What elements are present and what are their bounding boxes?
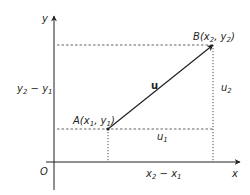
- vector-diagram: y x O B(x2, y2) A(x1, y1) u u1 u2 x2 − x…: [0, 0, 250, 195]
- origin-label: O: [40, 166, 48, 177]
- horizontal-difference-label: x2 − x1: [145, 168, 182, 181]
- component-u2-label: u2: [221, 82, 232, 95]
- component-u1-label: u1: [157, 131, 168, 144]
- x-axis-label: x: [231, 168, 238, 179]
- point-b-label: B(x2, y2): [193, 31, 235, 44]
- point-a-label: A(x1, y1): [72, 115, 115, 128]
- vertical-difference-label: y2 − y1: [16, 83, 53, 96]
- vector-u-label: u: [151, 80, 158, 91]
- y-axis-label: y: [41, 13, 49, 24]
- vector-u: [108, 45, 213, 129]
